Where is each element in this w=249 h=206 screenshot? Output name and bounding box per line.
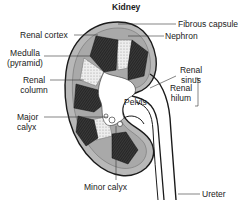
minor-calyx-shape xyxy=(104,114,108,118)
label-renal-hilum-line2: hilum xyxy=(168,93,194,103)
label-ureter: Ureter xyxy=(202,189,226,199)
label-renal-sinus-line1: Renal xyxy=(177,65,205,75)
label-pelvis: Pelvis xyxy=(124,97,147,107)
label-fibrous-capsule: Fibrous capsule xyxy=(178,19,238,29)
label-major-calyx: Major calyx xyxy=(17,112,38,132)
diagram-title: Kidney xyxy=(112,2,140,12)
label-renal-hilum: Renal hilum xyxy=(168,83,194,103)
label-renal-column-line1: Renal xyxy=(18,75,50,85)
label-medulla-line2: (pyramid) xyxy=(4,58,46,68)
label-medulla-line1: Medulla xyxy=(4,48,46,58)
kidney-diagram: Kidney Renal cortex Medulla (pyramid) Re… xyxy=(0,0,249,206)
label-renal-cortex: Renal cortex xyxy=(20,30,68,40)
label-medulla: Medulla (pyramid) xyxy=(4,48,46,68)
label-renal-hilum-line1: Renal xyxy=(168,83,194,93)
label-renal-column-line2: column xyxy=(18,85,50,95)
label-renal-sinus: Renal sinus xyxy=(177,65,205,85)
major-calyx-shape xyxy=(109,117,115,123)
label-renal-column: Renal column xyxy=(18,75,50,95)
label-major-calyx-line2: calyx xyxy=(17,122,38,132)
label-major-calyx-line1: Major xyxy=(17,112,38,122)
minor-calyx-shape xyxy=(118,122,123,127)
label-minor-calyx: Minor calyx xyxy=(84,182,127,192)
label-nephron: Nephron xyxy=(165,31,198,41)
